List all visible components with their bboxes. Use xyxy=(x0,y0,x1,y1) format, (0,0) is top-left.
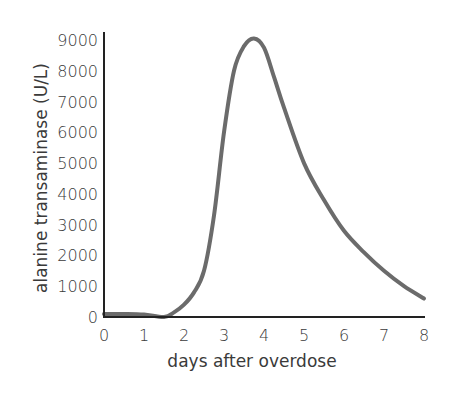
x-tick-label: 4 xyxy=(259,326,269,345)
y-tick-label: 7000 xyxy=(57,93,98,112)
x-tick-label: 8 xyxy=(419,326,429,345)
x-axis-tick-labels: 012345678 xyxy=(99,326,429,345)
y-tick-label: 3000 xyxy=(57,216,98,235)
y-tick-label: 1000 xyxy=(57,277,98,296)
y-axis-tick-labels: 0100020003000400050006000700080009000 xyxy=(57,31,98,327)
y-axis-title: alanine transaminase (U/L) xyxy=(31,63,51,293)
x-tick-label: 7 xyxy=(379,326,389,345)
y-tick-label: 0 xyxy=(88,308,98,327)
y-tick-label: 2000 xyxy=(57,246,98,265)
x-tick-label: 1 xyxy=(139,326,149,345)
alt-series-line xyxy=(104,38,424,317)
x-tick-label: 6 xyxy=(339,326,349,345)
y-tick-label: 5000 xyxy=(57,154,98,173)
x-tick-label: 5 xyxy=(299,326,309,345)
x-tick-label: 3 xyxy=(219,326,229,345)
y-tick-label: 4000 xyxy=(57,185,98,204)
x-axis-title: days after overdose xyxy=(167,351,336,371)
alt-chart: 0100020003000400050006000700080009000 01… xyxy=(0,0,452,396)
x-tick-label: 2 xyxy=(179,326,189,345)
y-tick-label: 9000 xyxy=(57,31,98,50)
y-tick-label: 6000 xyxy=(57,123,98,142)
x-tick-label: 0 xyxy=(99,326,109,345)
y-tick-label: 8000 xyxy=(57,62,98,81)
